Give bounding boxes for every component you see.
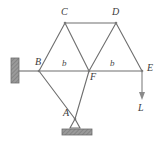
member-C-F	[65, 23, 89, 71]
truss-drawing-canvas	[0, 0, 161, 142]
joint-C	[64, 22, 67, 25]
span-label-fe: b	[110, 59, 115, 68]
node-label-E: E	[147, 63, 153, 73]
load-label-L: L	[138, 103, 144, 113]
node-label-B: B	[35, 57, 41, 67]
member-D-E	[116, 23, 142, 71]
node-label-C: C	[61, 7, 68, 17]
member-B-A	[39, 71, 75, 119]
joint-B	[38, 70, 41, 73]
span-label-bf: b	[62, 59, 67, 68]
pin-support-triangle	[70, 119, 80, 128]
node-label-D: D	[112, 7, 119, 17]
member-A-F	[75, 71, 89, 119]
truss-diagram-figure: A B C D E F b b L	[0, 0, 161, 142]
wall-support-plate	[11, 58, 19, 83]
node-label-F: F	[90, 72, 96, 82]
load-arrow-head	[139, 92, 145, 100]
load-arrow-e	[139, 71, 145, 100]
node-label-A: A	[63, 108, 69, 118]
joint-D	[115, 22, 118, 25]
pin-support-base-plate	[62, 129, 92, 135]
